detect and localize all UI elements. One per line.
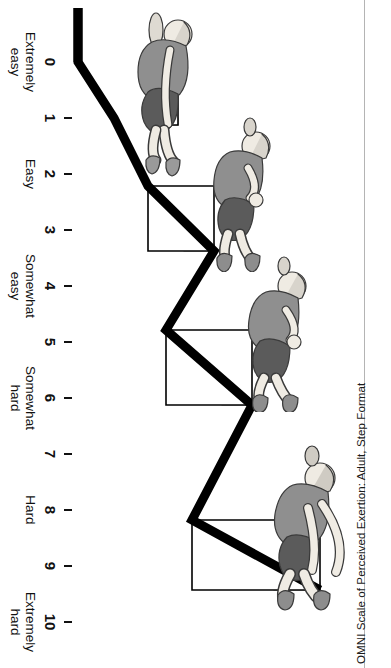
- scale-tick-mark: [64, 509, 72, 511]
- scale-tick-mark: [64, 229, 72, 231]
- scale-artwork-area: 012345678910 Extremely easyEasySomewhat …: [0, 0, 364, 668]
- scale-tick-mark: [64, 565, 72, 567]
- scale-tick-label: 3: [43, 226, 58, 234]
- scale-tick-mark: [64, 397, 72, 399]
- scale-anchor-label: Somewhat hard: [8, 366, 38, 430]
- scale-anchor-label: Extremely hard: [8, 592, 38, 652]
- figure-caption: OMNI Scale of Perceived Exertion: Adult,…: [355, 383, 367, 664]
- scale-tick-label: 6: [43, 394, 58, 402]
- scale-tick-mark: [64, 117, 72, 119]
- scale-tick-mark: [64, 621, 72, 623]
- scale-stage: 012345678910 Extremely easyEasySomewhat …: [0, 0, 364, 668]
- exerciser-level-3: [188, 112, 298, 272]
- scale-tick-label: 5: [43, 338, 58, 346]
- scale-tick-mark: [64, 341, 72, 343]
- exerciser-level-10: [250, 442, 364, 612]
- scale-anchor-label: Somewhat easy: [8, 254, 38, 318]
- scale-tick-label: 2: [43, 170, 58, 178]
- scale-anchor-label: Easy: [23, 159, 38, 189]
- scale-tick-mark: [64, 173, 72, 175]
- scale-anchor-label: Extremely easy: [8, 32, 38, 92]
- scale-tick-label: 4: [43, 282, 58, 290]
- scale-tick-label: 8: [43, 506, 58, 514]
- scale-anchor-label: Hard: [23, 495, 38, 524]
- scale-tick-label: 10: [43, 614, 58, 631]
- scale-tick-label: 1: [43, 114, 58, 122]
- scale-tick-mark: [64, 285, 72, 287]
- scale-tick-label: 9: [43, 562, 58, 570]
- scale-tick-label: 0: [43, 58, 58, 66]
- omni-scale-figure: 012345678910 Extremely easyEasySomewhat …: [0, 0, 391, 668]
- scale-tick-mark: [64, 453, 72, 455]
- exerciser-level-6: [226, 252, 338, 412]
- scale-tick-label: 7: [43, 450, 58, 458]
